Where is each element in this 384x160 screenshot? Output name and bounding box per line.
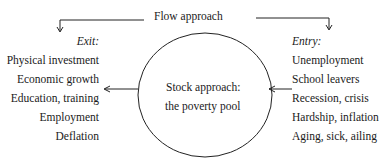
flow-arrow-exit	[60, 20, 144, 31]
exit-item: Deflation	[56, 129, 99, 143]
exit-item: Physical investment	[7, 53, 99, 67]
exit-item: Economic growth	[17, 72, 99, 86]
exit-heading: Exit:	[77, 34, 99, 48]
stock-circle	[138, 33, 272, 157]
entry-item: Hardship, inflation	[292, 110, 379, 124]
exit-item: Employment	[40, 110, 99, 124]
flow-approach-title: Flow approach	[154, 9, 223, 23]
flow-arrow-entry	[256, 18, 329, 29]
entry-item: Aging, sick, ailing	[292, 129, 377, 143]
stock-approach-label: Stock approach:	[166, 80, 240, 94]
poverty-pool-label: the poverty pool	[165, 99, 240, 113]
entry-item: Recession, crisis	[292, 91, 369, 105]
entry-item: School leavers	[292, 72, 359, 86]
exit-item: Education, training	[11, 91, 99, 105]
entry-heading: Entry:	[292, 34, 321, 48]
entry-item: Unemployment	[292, 53, 364, 67]
